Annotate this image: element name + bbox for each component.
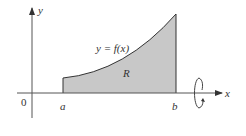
- region-label: R: [122, 67, 130, 79]
- origin-label: 0: [21, 96, 27, 108]
- point-b-label: b: [172, 100, 178, 112]
- x-axis-label: x: [224, 87, 230, 99]
- region-diagram: y x 0 a b y = f(x) R: [0, 0, 246, 136]
- y-axis-label: y: [37, 4, 43, 16]
- curve-label: y = f(x): [95, 42, 129, 55]
- point-a-label: a: [60, 100, 66, 112]
